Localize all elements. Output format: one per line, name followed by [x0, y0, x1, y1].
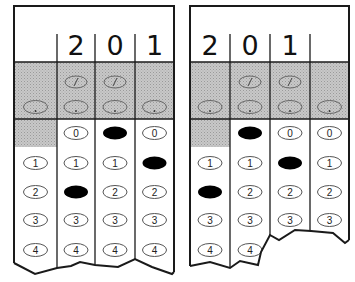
bubble-label: 4	[247, 245, 253, 256]
bubble-label: 3	[207, 215, 213, 226]
bubble-label: 2	[112, 187, 118, 198]
bubble-label: 1	[73, 158, 79, 169]
bubble-label: 0	[73, 128, 79, 139]
decimal-point	[75, 110, 77, 112]
bubble-label: 4	[73, 245, 79, 256]
right-grid-column-2[interactable]: 1023	[278, 30, 302, 227]
bubble-label: 1	[247, 158, 253, 169]
bubble-label: 4	[152, 245, 158, 256]
filled-bubble[interactable]	[103, 127, 127, 140]
shaded-cell	[14, 119, 57, 147]
bubble-label: 1	[112, 158, 118, 169]
left-grid: 1234201340123410234	[14, 6, 174, 274]
decimal-point	[329, 110, 331, 112]
bubble-label: 1	[327, 158, 333, 169]
bubble-label: 2	[287, 187, 293, 198]
bubble-label: 3	[73, 215, 79, 226]
decimal-point	[35, 110, 37, 112]
written-digit: 0	[106, 30, 123, 61]
right-grid: 21340123410230123	[190, 6, 349, 268]
answer-grid-sheet: 123420134012341023421340123410230123	[0, 0, 355, 282]
bubble-label: 1	[33, 158, 39, 169]
bubble-label: 4	[112, 245, 118, 256]
filled-bubble[interactable]	[198, 186, 222, 199]
written-digit: 1	[146, 30, 163, 61]
written-digit: 2	[67, 30, 84, 61]
bubble-label: 4	[33, 245, 39, 256]
bubble-label: 0	[327, 128, 333, 139]
bubble-label: 4	[207, 245, 213, 256]
bubble-label: 2	[327, 187, 333, 198]
decimal-point	[209, 110, 211, 112]
bubble-label: 3	[152, 215, 158, 226]
filled-bubble[interactable]	[143, 157, 167, 170]
bubble-label: 2	[33, 187, 39, 198]
bubble-label: 2	[152, 187, 158, 198]
decimal-point	[249, 110, 251, 112]
bubble-label: 1	[207, 158, 213, 169]
bubble-label: 3	[327, 215, 333, 226]
shaded-cell	[190, 119, 230, 147]
filled-bubble[interactable]	[278, 157, 302, 170]
bubble-label: 0	[152, 128, 158, 139]
shaded-header	[14, 62, 174, 119]
decimal-point	[114, 110, 116, 112]
bubble-label: 3	[247, 215, 253, 226]
bubble-label: 2	[247, 187, 253, 198]
bubble-label: 3	[33, 215, 39, 226]
filled-bubble[interactable]	[64, 186, 88, 199]
bubble-label: 3	[112, 215, 118, 226]
bubble-label: 3	[287, 215, 293, 226]
bubble-label: 0	[287, 128, 293, 139]
written-digit: 0	[241, 30, 258, 61]
written-digit: 1	[281, 30, 298, 61]
written-digit: 2	[201, 30, 218, 61]
decimal-point	[289, 110, 291, 112]
filled-bubble[interactable]	[238, 127, 262, 140]
decimal-point	[154, 110, 156, 112]
